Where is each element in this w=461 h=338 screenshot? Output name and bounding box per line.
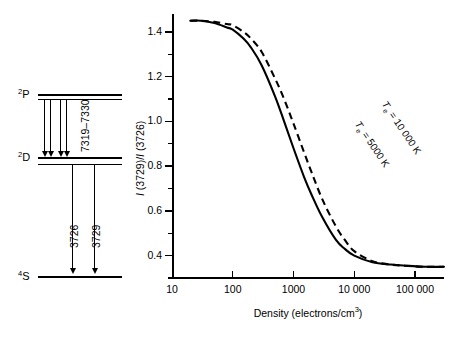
y-tick-major [165,165,172,166]
x-tick [354,271,355,278]
transition-arrow-3726 [72,165,73,269]
x-tick [414,271,415,278]
y-tick-label: 0.6 [136,204,162,216]
x-tick-label: 10 000 [319,283,389,295]
y-tick-minor [168,233,173,234]
transition-arrow-7319a [44,100,45,152]
y-tick-major [165,255,172,256]
x-tick-label: 1000 [259,283,329,295]
transition-label-7319-7330: 7319–7330 [79,99,91,152]
y-tick-major [165,121,172,122]
y-tick-label: 1.4 [136,25,162,37]
transition-arrowhead-3729 [92,268,98,274]
y-tick-minor [168,277,173,278]
density-ratio-plot: I (3729)/I (3726) Density (electrons/cm3… [150,0,461,338]
y-tick-major [165,31,172,32]
y-tick-minor [168,143,173,144]
level-label-2d: 2D [18,151,30,163]
y-tick-label: 0.8 [136,159,162,171]
x-tick-label: 10 [137,283,207,295]
y-tick-minor [168,98,173,99]
y-tick-major [165,76,172,77]
y-tick-label: 0.4 [136,249,162,261]
level-line-4s [38,276,122,278]
level-label-2p: 2P [18,88,30,100]
transition-arrow-7319c [60,100,61,152]
x-tick-label: 100 [198,283,268,295]
transition-arrow-3729 [94,165,95,269]
transition-arrow-7319b [50,100,51,152]
figure: 2P 2D 4S 7319–7330 3726 3729 I (3729)/I … [0,0,461,338]
level-label-4s: 4S [18,270,30,282]
x-tick-label: 100 000 [380,283,450,295]
x-tick [293,271,294,278]
y-tick-major [165,210,172,211]
level-line-2p-upper [38,94,122,96]
transition-arrowhead-7319b [48,151,54,157]
y-axis-title-i2: I [134,154,146,157]
transition-arrowhead-7319d [64,151,70,157]
y-tick-minor [168,54,173,55]
energy-level-diagram: 2P 2D 4S 7319–7330 3726 3729 [0,0,150,338]
x-tick [232,271,233,278]
y-tick-label: 1.2 [136,70,162,82]
level-line-2d-upper [38,157,122,159]
transition-label-3726: 3726 [68,225,80,248]
y-tick-label: 1.0 [136,114,162,126]
y-tick-minor [168,188,173,189]
transition-label-3729: 3729 [90,225,102,248]
y-axis-title-i1: I [134,193,146,196]
transition-arrowhead-3726 [70,268,76,274]
level-line-2d-lower [38,164,122,166]
transition-arrow-7319d [66,100,67,152]
